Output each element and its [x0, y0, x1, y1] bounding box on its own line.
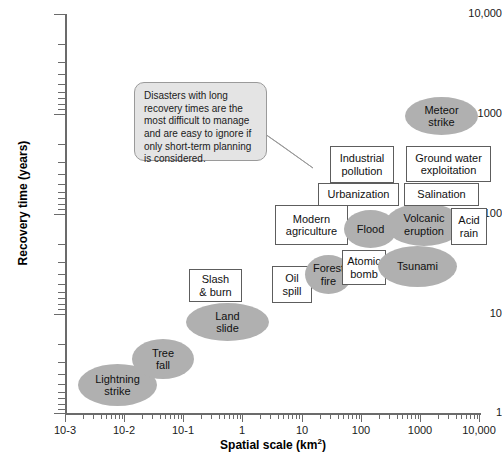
y-tick-minor [58, 292, 65, 293]
x-tick-minor [402, 413, 403, 419]
x-tick-minor [224, 413, 225, 419]
x-tick-minor [270, 413, 271, 419]
x-tick-label: 10 [296, 424, 308, 436]
data-mark-modern-agriculture[interactable]: Modern agriculture [275, 205, 348, 245]
y-tick-minor [58, 144, 65, 145]
y-tick-minor [58, 344, 65, 345]
x-tick-minor [211, 413, 212, 419]
x-tick-minor [237, 413, 238, 419]
x-tick-label: 10-1 [172, 424, 194, 436]
y-tick-minor [58, 304, 65, 305]
data-mark-land-slide[interactable]: Land slide [186, 303, 269, 341]
x-tick-minor [299, 413, 300, 419]
callout-annotation: Disasters with long recovery times are t… [134, 82, 267, 161]
y-tick-minor [58, 392, 65, 393]
x-tick-label: 10,000 [462, 424, 496, 436]
x-tick-minor [115, 413, 116, 419]
data-mark-meteor-strike[interactable]: Meteor strike [405, 97, 478, 135]
y-tick-minor [58, 184, 65, 185]
x-tick-minor [181, 413, 182, 419]
x-tick-label: 10-3 [54, 424, 76, 436]
y-tick-minor [58, 62, 65, 63]
y-tick-minor [58, 274, 65, 275]
data-mark-ground-water-exploitation[interactable]: Ground water exploitation [406, 146, 491, 182]
x-tick-minor [338, 413, 339, 419]
x-tick-major [302, 413, 303, 422]
x-tick-minor [438, 413, 439, 419]
y-tick-minor [58, 104, 65, 105]
y-tick-minor [58, 298, 65, 299]
data-mark-salination[interactable]: Salination [404, 183, 479, 206]
data-mark-industrial-pollution[interactable]: Industrial pollution [330, 146, 394, 183]
x-tick-major [124, 413, 125, 422]
y-tick-minor [58, 198, 65, 199]
x-tick-minor [111, 413, 112, 419]
x-tick-minor [165, 413, 166, 419]
y-tick-minor [58, 162, 65, 163]
y-tick-minor [58, 262, 65, 263]
x-tick-minor [283, 413, 284, 419]
x-tick-minor [142, 413, 143, 419]
y-tick-minor [58, 84, 65, 85]
y-tick-minor [58, 204, 65, 205]
y-tick-minor [58, 309, 65, 310]
x-tick-minor [233, 413, 234, 419]
x-tick-minor [101, 413, 102, 419]
x-tick-minor [122, 413, 123, 419]
y-tick-minor [58, 362, 65, 363]
y-tick-minor [58, 192, 65, 193]
y-tick-minor [58, 74, 65, 75]
data-mark-tsunami[interactable]: Tsunami [378, 246, 457, 287]
x-tick-minor [352, 413, 353, 419]
x-tick-label: 1000 [408, 424, 432, 436]
chart-canvas: 10,0001000100101 10-310-210-111010010001… [0, 0, 502, 454]
x-tick-minor [174, 413, 175, 419]
y-tick-major [54, 314, 65, 315]
y-tick-minor [58, 284, 65, 285]
y-tick-major [54, 413, 65, 414]
y-tick-minor [58, 92, 65, 93]
x-tick-minor [119, 413, 120, 419]
y-tick-major [54, 214, 65, 215]
y-tick-minor [58, 109, 65, 110]
y-tick-minor [58, 398, 65, 399]
data-mark-tree-fall[interactable]: Tree fall [132, 339, 194, 379]
x-tick-label: 10-2 [113, 424, 135, 436]
x-tick-minor [93, 413, 94, 419]
y-tick-minor [58, 384, 65, 385]
y-tick-minor [58, 44, 65, 45]
x-tick-label: 1 [239, 424, 245, 436]
x-tick-minor [201, 413, 202, 419]
x-tick-minor [229, 413, 230, 419]
x-tick-minor [397, 413, 398, 419]
x-tick-minor [278, 413, 279, 419]
x-tick-minor [292, 413, 293, 419]
x-axis-line [65, 413, 481, 415]
x-tick-major [361, 413, 362, 422]
y-tick-major [54, 114, 65, 115]
x-tick-minor [178, 413, 179, 419]
x-tick-minor [160, 413, 161, 419]
y-tick-minor [58, 404, 65, 405]
x-tick-minor [415, 413, 416, 419]
y-tick-minor [58, 409, 65, 410]
x-tick-minor [240, 413, 241, 419]
x-tick-minor [389, 413, 390, 419]
y-tick-minor [58, 209, 65, 210]
y-axis-title: Recovery time (years) [16, 118, 30, 288]
y-tick-label: 1 [450, 406, 502, 418]
x-axis-title: Spatial scale (km2) [65, 437, 481, 452]
data-mark-urbanization[interactable]: Urbanization [318, 183, 399, 206]
y-tick-label: 10 [450, 307, 502, 319]
x-tick-minor [379, 413, 380, 419]
x-tick-minor [343, 413, 344, 419]
x-tick-minor [359, 413, 360, 419]
x-tick-minor [152, 413, 153, 419]
x-tick-minor [83, 413, 84, 419]
y-tick-minor [58, 98, 65, 99]
data-mark-slash-and-burn[interactable]: Slash & burn [189, 269, 242, 302]
x-tick-major [183, 413, 184, 422]
x-tick-major [420, 413, 421, 422]
data-mark-acid-rain[interactable]: Acid rain [451, 208, 487, 245]
x-tick-minor [348, 413, 349, 419]
